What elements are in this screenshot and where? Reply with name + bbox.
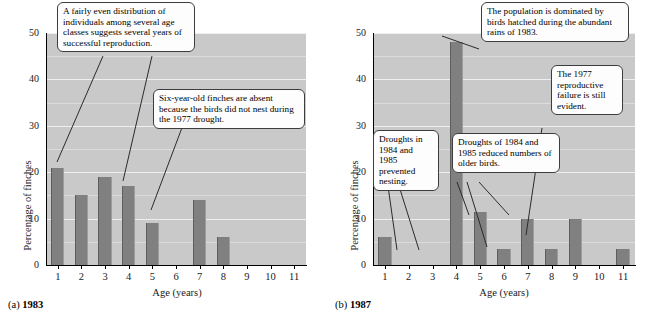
chart-panel-1983: 01020304050 Percentage of finches 123456… [0, 0, 327, 319]
callout-even-distribution: A fairly even distribution of individual… [57, 2, 195, 52]
leader-line-b4b [467, 182, 487, 247]
callout-droughts-reduced-older: Droughts of 1984 and 1985 reduced number… [452, 133, 560, 173]
callout-droughts-prevented-nesting: Droughts in 1984 and 1985 prevented nest… [373, 130, 439, 191]
chart-panel-1987: 01020304050 Percentage of finches 123456… [327, 0, 654, 319]
callout-six-year-absent: Six-year-old finches are absent because … [153, 89, 305, 129]
leader-line-a2 [151, 125, 183, 210]
leader-line-b4a [457, 182, 469, 215]
leader-line-a1a [57, 56, 103, 162]
leader-line-b4c [479, 182, 509, 215]
figure-root: 01020304050 Percentage of finches 123456… [0, 0, 654, 319]
leader-line-b3b [399, 186, 419, 250]
callout-reproductive-failure: The 1977 reproductive failure is still e… [551, 65, 623, 115]
leader-line-b1 [442, 36, 479, 49]
leader-line-a1b [123, 56, 152, 181]
leader-line-b3a [388, 186, 397, 250]
callout-population-dominated: The population is dominated by birds hat… [481, 2, 629, 42]
